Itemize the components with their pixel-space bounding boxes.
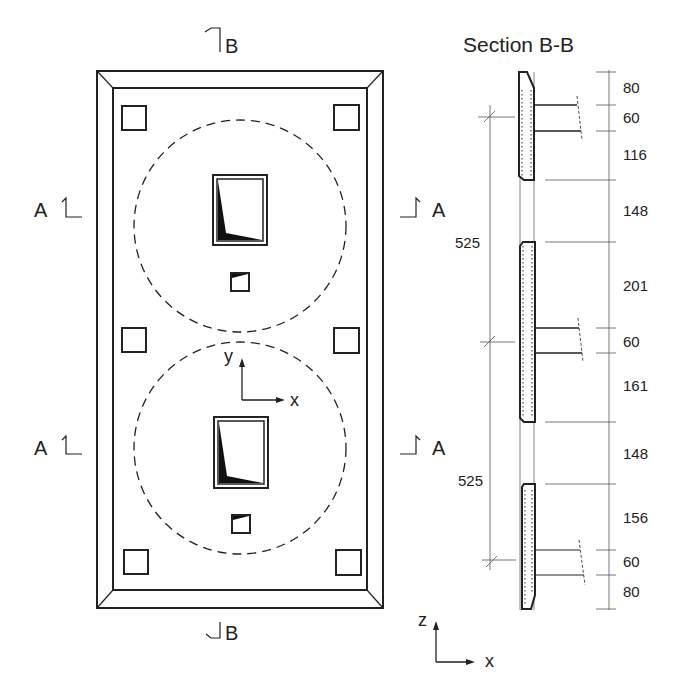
svg-text:148: 148 (623, 202, 648, 219)
section-panel-middle (520, 242, 535, 422)
section-marker-a-left-lower: A (34, 437, 48, 459)
svg-text:80: 80 (623, 583, 640, 600)
section-marker-b-bottom-icon (206, 622, 220, 638)
axis-label-y: y (224, 346, 233, 366)
plan-axes (239, 358, 285, 403)
svg-text:201: 201 (623, 277, 648, 294)
anchor-square (122, 328, 146, 352)
window-shade (218, 181, 262, 240)
svg-text:116: 116 (623, 146, 647, 163)
drawing-canvas: y x B B A A A A Section B-B (0, 0, 680, 692)
dashed-circle-upper (134, 120, 346, 332)
svg-text:161: 161 (623, 377, 648, 394)
svg-text:60: 60 (623, 333, 640, 350)
svg-text:148: 148 (623, 445, 648, 462)
section-marker-a-icon (62, 436, 82, 454)
svg-text:60: 60 (623, 553, 640, 570)
svg-text:60: 60 (623, 109, 640, 126)
dimension-label-left-lower: 525 (458, 472, 483, 489)
section-marker-a-left-upper: A (34, 199, 48, 221)
anchor-square (336, 550, 361, 575)
section-panel-bottom (522, 484, 535, 609)
axis-label-z: z (418, 610, 427, 630)
section-title: Section B-B (463, 33, 574, 56)
section-marker-b-bottom: B (225, 622, 238, 644)
section-axes (433, 621, 475, 665)
outer-frame (97, 71, 383, 608)
svg-text:156: 156 (623, 509, 648, 526)
section-marker-a-icon (400, 198, 420, 217)
dimension-labels-right: 80 60 116 148 201 60 161 148 156 60 80 (623, 79, 648, 600)
anchor-square (122, 106, 146, 130)
anchor-square (124, 550, 148, 574)
section-view (519, 72, 585, 610)
anchor-square (334, 105, 359, 130)
section-marker-b-top-icon (205, 28, 220, 52)
section-marker-a-right-upper: A (432, 199, 446, 221)
section-marker-b-top: B (225, 35, 238, 57)
dashed-circle-lower (134, 342, 346, 554)
dimension-chain-left (478, 105, 516, 570)
section-panel-top (519, 72, 534, 180)
section-marker-a-icon (62, 198, 82, 217)
window-shade (219, 423, 263, 483)
svg-text:80: 80 (623, 79, 640, 96)
axis-label-x: x (290, 390, 299, 410)
dimension-label-left-upper: 525 (455, 234, 480, 251)
axis-label-x-section: x (485, 651, 494, 671)
plan-view (97, 71, 383, 608)
section-marker-a-icon (400, 436, 420, 454)
section-marker-a-right-lower: A (432, 437, 446, 459)
anchor-square (334, 328, 359, 353)
